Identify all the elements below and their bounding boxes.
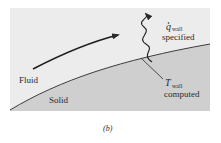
t-wall-computed-label: computed bbox=[164, 89, 200, 99]
figure-caption: (b) bbox=[103, 124, 113, 133]
heat-transfer-diagram: q wall specified T wall computed Fluid S… bbox=[0, 0, 221, 143]
q-wall-symbol: q bbox=[166, 21, 171, 32]
fluid-label: Fluid bbox=[19, 75, 39, 85]
solid-label: Solid bbox=[49, 95, 69, 105]
q-wall-specified-label: specified bbox=[162, 32, 195, 42]
